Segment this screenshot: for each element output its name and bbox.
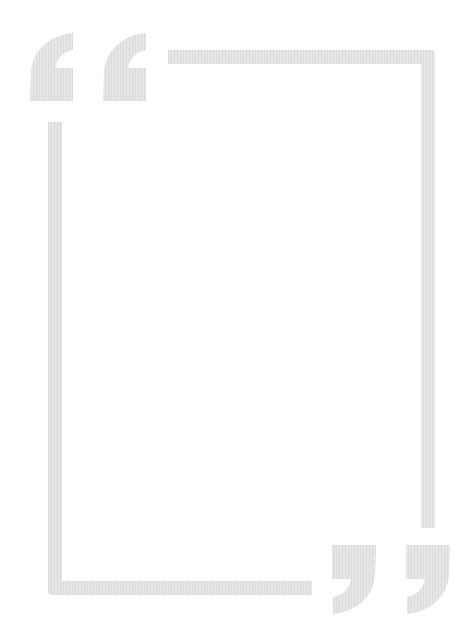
quote-frame (0, 0, 475, 639)
quote-content-area (70, 80, 410, 570)
